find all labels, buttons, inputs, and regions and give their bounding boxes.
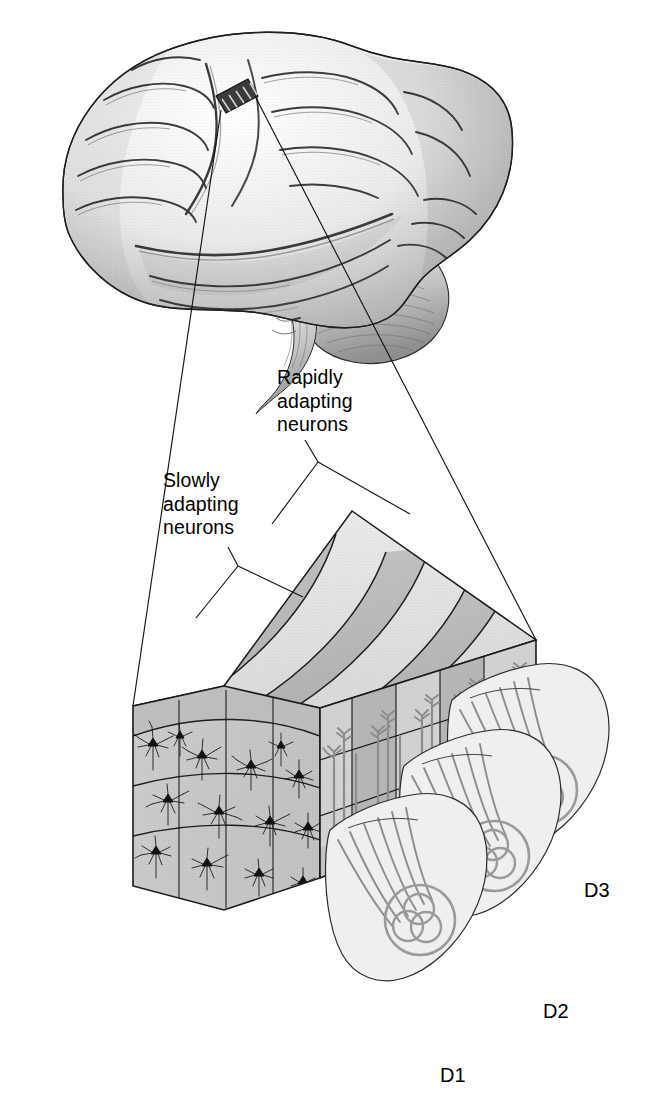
slow-pointer xyxy=(196,547,238,618)
label-digit-d2: D2 xyxy=(543,1000,569,1023)
slow-pointer-b xyxy=(238,566,303,597)
label-digit-d3: D3 xyxy=(584,879,610,902)
figure-canvas xyxy=(0,0,664,1120)
rapid-pointer-a xyxy=(272,440,318,524)
cerebrum xyxy=(55,20,525,340)
digit-d1 xyxy=(326,794,487,981)
block-front-face xyxy=(125,680,335,920)
label-rapidly-adapting-neurons: Rapidly adapting neurons xyxy=(277,366,353,437)
label-slowly-adapting-neurons: Slowly adapting neurons xyxy=(163,469,239,540)
rapid-pointer-b xyxy=(318,462,410,514)
label-digit-d1: D1 xyxy=(440,1064,466,1087)
somatosensory-cortex-figure: Slowly adapting neurons Rapidly adapting… xyxy=(0,0,664,1120)
brain-illustration xyxy=(55,20,525,414)
